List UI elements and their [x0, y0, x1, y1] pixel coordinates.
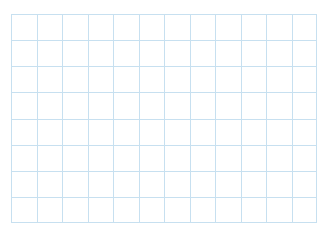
grid-line-horizontal	[11, 119, 317, 120]
grid-line-horizontal	[11, 145, 317, 146]
grid-line-horizontal	[11, 171, 317, 172]
grid-paper-sheet	[11, 14, 317, 223]
grid-line-horizontal	[11, 40, 317, 41]
grid-line-horizontal	[11, 197, 317, 198]
grid-line-horizontal	[11, 92, 317, 93]
grid-line-horizontal	[11, 66, 317, 67]
grid-line-horizontal	[11, 14, 317, 15]
screenshot-canvas	[0, 0, 329, 240]
grid-line-horizontal	[11, 222, 317, 223]
